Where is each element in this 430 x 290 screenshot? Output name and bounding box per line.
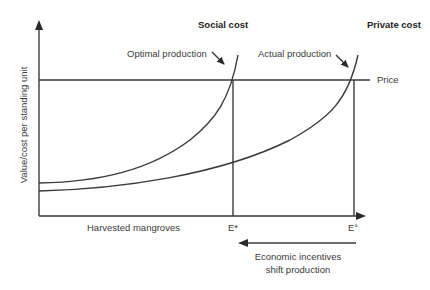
optimal-production-label: Optimal production [127,48,207,59]
incentive-label-line1: Economic incentives [255,251,342,262]
e-zero-label: E° [348,222,358,233]
social-cost-label: Social cost [198,19,249,30]
actual-production-label: Actual production [258,48,331,59]
x-axis-label: Harvested mangroves [87,222,180,233]
e-star-label: E* [228,222,238,233]
y-axis-label: Value/cost per standing unit [18,66,29,183]
actual-arrow [336,55,348,67]
price-label: Price [377,74,399,85]
social-cost-curve [39,55,238,183]
optimal-arrow [212,52,224,64]
private-cost-curve [39,55,358,191]
externality-diagram: Social cost Private cost Optimal product… [0,0,430,290]
incentive-label-line2: shift production [266,264,330,275]
private-cost-label: Private cost [367,19,422,30]
